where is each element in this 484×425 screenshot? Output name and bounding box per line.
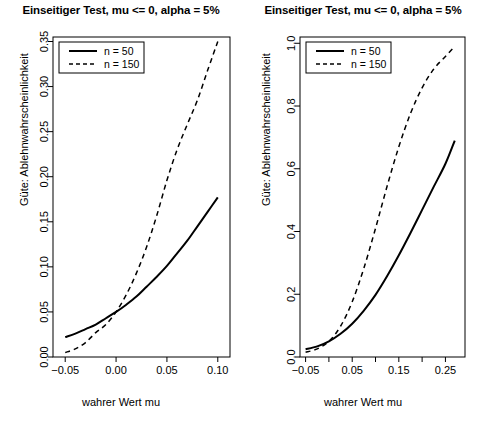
x-tick-label: 0.00 (105, 364, 126, 376)
plot-area-left: −0.050.000.050.100.000.050.100.150.200.2… (0, 0, 242, 425)
plot-box (300, 37, 465, 357)
y-tick-label: 0.00 (38, 346, 50, 367)
y-tick-label: 0.25 (38, 121, 50, 142)
x-tick-label: −0.05 (292, 364, 320, 376)
y-tick-label: 0.05 (38, 301, 50, 322)
legend-label-1: n = 50 (351, 45, 381, 57)
x-tick-label: 0.25 (435, 364, 456, 376)
x-tick-label: 0.05 (156, 364, 177, 376)
y-tick-label: 0.6 (285, 161, 297, 176)
y-tick-label: 0.15 (38, 211, 50, 232)
y-tick-label: 0.8 (285, 98, 297, 113)
series-line-2 (306, 46, 455, 352)
series-line-1 (65, 197, 218, 337)
y-tick-label: 0.35 (38, 31, 50, 52)
x-tick-label: −0.05 (51, 364, 79, 376)
legend-label-2: n = 150 (351, 58, 386, 70)
x-tick-label: 0.10 (207, 364, 228, 376)
y-tick-label: 0.2 (285, 287, 297, 302)
y-tick-label: 0.30 (38, 76, 50, 97)
y-tick-label: 0.10 (38, 256, 50, 277)
y-tick-label: 0.0 (285, 349, 297, 364)
chart-panel-left: Einseitiger Test, mu <= 0, alpha = 5% wa… (0, 0, 242, 425)
x-tick-label: 0.05 (341, 364, 362, 376)
y-tick-label: 0.4 (285, 224, 297, 239)
legend-label-2: n = 150 (104, 58, 139, 70)
x-tick-label: 0.15 (388, 364, 409, 376)
y-tick-label: 1.0 (285, 36, 297, 51)
plot-area-right: −0.050.050.150.250.00.20.40.60.81.0n = 5… (242, 0, 484, 425)
figure-root: Einseitiger Test, mu <= 0, alpha = 5% wa… (0, 0, 484, 425)
y-tick-label: 0.20 (38, 166, 50, 187)
legend-label-1: n = 50 (104, 45, 134, 57)
series-line-1 (306, 141, 455, 350)
chart-panel-right: Einseitiger Test, mu <= 0, alpha = 5% wa… (242, 0, 484, 425)
series-line-2 (65, 42, 218, 353)
